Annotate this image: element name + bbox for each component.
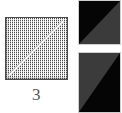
swatch-top	[78, 0, 121, 45]
stipple-texture-square	[5, 17, 68, 80]
figure-root: 3	[0, 0, 122, 113]
swatch-bottom	[78, 52, 121, 113]
sample-caption: 3	[5, 84, 68, 106]
sample-panel	[5, 17, 68, 80]
